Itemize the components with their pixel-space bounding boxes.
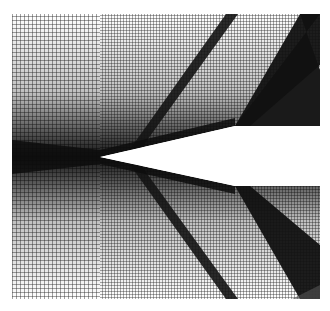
mesh-figure (0, 0, 330, 311)
